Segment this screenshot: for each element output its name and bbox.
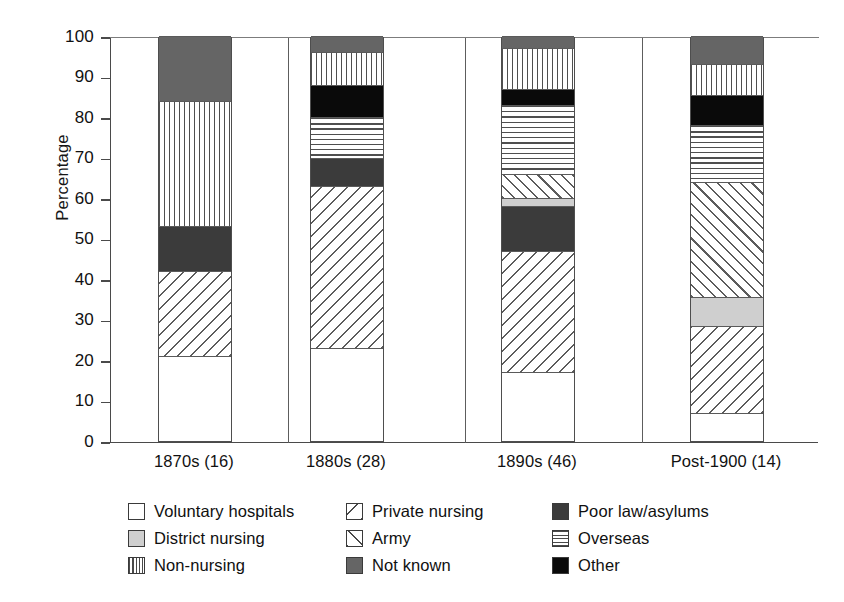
bar-post-1900-14[interactable]: [690, 37, 764, 442]
legend-item-non-nursing[interactable]: Non-nursing: [128, 556, 346, 575]
legend-row: Non-nursingNot knownOther: [128, 552, 828, 579]
bar-segment-district-nursing[interactable]: [502, 198, 574, 206]
legend-swatch-icon: [552, 530, 569, 547]
y-tick-label: 60: [75, 189, 94, 209]
bar-segment-overseas[interactable]: [311, 117, 383, 158]
bar-1870s-16[interactable]: [158, 37, 232, 442]
y-tick-mark: [101, 78, 110, 80]
y-tick-label: 0: [84, 432, 94, 452]
legend-item-poor-law-asylums[interactable]: Poor law/asylums: [552, 502, 792, 521]
bar-segment-poor-law-asylums[interactable]: [159, 226, 231, 271]
legend: Voluntary hospitalsPrivate nursingPoor l…: [128, 498, 828, 579]
legend-label: Voluntary hospitals: [154, 502, 294, 521]
legend-item-army[interactable]: Army: [346, 529, 552, 548]
bar-segment-private-nursing[interactable]: [159, 271, 231, 356]
legend-item-private-nursing[interactable]: Private nursing: [346, 502, 552, 521]
y-tick-label: 10: [75, 391, 94, 411]
y-tick-mark: [101, 37, 110, 39]
y-tick-label: 30: [75, 310, 94, 330]
y-tick-mark: [101, 199, 110, 201]
bar-segment-not-known[interactable]: [691, 36, 763, 64]
y-tick-label: 70: [75, 148, 94, 168]
legend-item-overseas[interactable]: Overseas: [552, 529, 792, 548]
x-axis-label-1: 1880s (28): [246, 452, 446, 471]
bar-segment-overseas[interactable]: [691, 125, 763, 182]
y-tick-label: 40: [75, 270, 94, 290]
y-tick-label: 20: [75, 351, 94, 371]
legend-row: Voluntary hospitalsPrivate nursingPoor l…: [128, 498, 828, 525]
legend-swatch-icon: [552, 503, 569, 520]
legend-label: Overseas: [578, 529, 649, 548]
legend-swatch-icon: [128, 557, 145, 574]
legend-item-other[interactable]: Other: [552, 556, 792, 575]
bar-segment-private-nursing[interactable]: [691, 326, 763, 413]
legend-label: Private nursing: [372, 502, 484, 521]
bar-segment-not-known[interactable]: [502, 36, 574, 48]
bar-segment-voluntary-hospitals[interactable]: [159, 356, 231, 441]
bar-segment-other[interactable]: [502, 89, 574, 105]
category-separator: [465, 38, 466, 443]
bar-segment-private-nursing[interactable]: [311, 186, 383, 348]
bar-segment-not-known[interactable]: [159, 36, 231, 101]
legend-swatch-icon: [346, 557, 363, 574]
bar-1880s-28[interactable]: [310, 37, 384, 442]
bar-segment-non-nursing[interactable]: [502, 48, 574, 89]
legend-swatch-icon: [128, 503, 145, 520]
bar-segment-non-nursing[interactable]: [691, 64, 763, 94]
bar-segment-poor-law-asylums[interactable]: [311, 158, 383, 186]
y-tick-mark: [101, 361, 110, 363]
legend-item-not-known[interactable]: Not known: [346, 556, 552, 575]
bar-segment-not-known[interactable]: [311, 36, 383, 52]
bar-segment-district-nursing[interactable]: [691, 297, 763, 325]
legend-row: District nursingArmyOverseas: [128, 525, 828, 552]
bar-segment-other[interactable]: [311, 85, 383, 117]
bar-segment-other[interactable]: [691, 95, 763, 125]
legend-label: Army: [372, 529, 411, 548]
legend-swatch-icon: [346, 530, 363, 547]
y-tick-mark: [101, 321, 110, 323]
bar-segment-voluntary-hospitals[interactable]: [311, 348, 383, 441]
category-separator: [642, 38, 643, 443]
y-tick-mark: [101, 118, 110, 120]
y-tick-label: 50: [75, 229, 94, 249]
bar-segment-private-nursing[interactable]: [502, 251, 574, 373]
bar-segment-overseas[interactable]: [502, 105, 574, 174]
y-tick-label: 90: [75, 67, 94, 87]
y-axis-label: Percentage: [53, 83, 72, 273]
y-tick-mark: [101, 159, 110, 161]
bar-segment-voluntary-hospitals[interactable]: [691, 413, 763, 441]
legend-label: Non-nursing: [154, 556, 245, 575]
y-tick-mark: [101, 442, 110, 444]
y-tick-label: 100: [65, 27, 94, 47]
bar-segment-poor-law-asylums[interactable]: [502, 206, 574, 251]
y-tick-mark: [101, 240, 110, 242]
y-tick-label: 80: [75, 108, 94, 128]
bar-segment-army[interactable]: [502, 174, 574, 198]
bar-1890s-46[interactable]: [501, 37, 575, 442]
bar-segment-voluntary-hospitals[interactable]: [502, 372, 574, 441]
legend-item-voluntary-hospitals[interactable]: Voluntary hospitals: [128, 502, 346, 521]
legend-label: Other: [578, 556, 620, 575]
bar-segment-non-nursing[interactable]: [159, 101, 231, 227]
x-axis-label-3: Post-1900 (14): [626, 452, 826, 471]
legend-label: Poor law/asylums: [578, 502, 709, 521]
bar-segment-army[interactable]: [691, 182, 763, 297]
plot-area: [110, 38, 818, 443]
bar-segment-non-nursing[interactable]: [311, 52, 383, 84]
legend-swatch-icon: [552, 557, 569, 574]
legend-swatch-icon: [128, 530, 145, 547]
category-separator: [288, 38, 289, 443]
legend-label: Not known: [372, 556, 451, 575]
legend-label: District nursing: [154, 529, 265, 548]
legend-item-district-nursing[interactable]: District nursing: [128, 529, 346, 548]
y-tick-mark: [101, 280, 110, 282]
y-tick-mark: [101, 402, 110, 404]
x-axis-label-2: 1890s (46): [437, 452, 637, 471]
legend-swatch-icon: [346, 503, 363, 520]
